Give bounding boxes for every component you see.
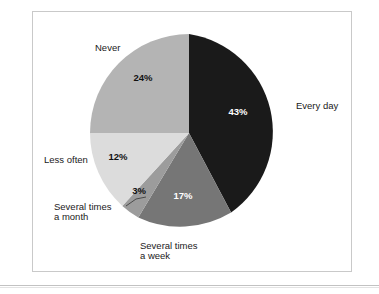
category-label-several-times-a-week-line2: a week: [140, 250, 170, 261]
pie-chart-svg: 43% 17% 3% 12% 24% Every day Several tim…: [0, 0, 379, 294]
pie-chart-figure: 43% 17% 3% 12% 24% Every day Several tim…: [0, 0, 379, 294]
slice-value-several-times-a-month: 3%: [132, 185, 146, 196]
slice-value-less-often: 12%: [108, 151, 128, 162]
slice-value-several-times-a-week: 17%: [173, 190, 193, 201]
slice-value-never: 24%: [133, 72, 153, 83]
page-divider-line-shadow: [0, 287, 379, 288]
slice-value-every-day: 43%: [228, 106, 248, 117]
category-label-several-times-a-month-line2: a month: [54, 211, 88, 222]
category-label-less-often: Less often: [44, 154, 88, 165]
category-label-never: Never: [95, 42, 120, 53]
page-divider-line: [0, 285, 379, 286]
category-label-every-day: Every day: [296, 100, 338, 111]
